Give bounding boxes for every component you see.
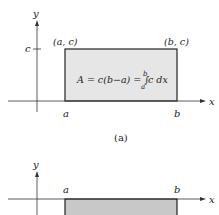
corner-left-label: (a, c) [53, 36, 78, 47]
x-arrow-icon [200, 197, 206, 201]
rectangle-area [65, 199, 177, 215]
y-label: y [32, 8, 39, 19]
y-label: y [32, 159, 39, 170]
corner-right-label: (b, c) [164, 36, 189, 47]
y-arrow-icon [35, 171, 39, 177]
x-arrow-icon [200, 99, 206, 103]
figure-b: y x a b [8, 159, 215, 215]
caption: (a) [114, 132, 128, 143]
x-label: x [209, 194, 215, 205]
a-label: a [63, 108, 69, 119]
c-label: c [25, 43, 31, 54]
diagram: y x c (a, c) (b, c) A = c(b−a) = ∫ b a c… [0, 0, 219, 215]
formula: A = c(b−a) = ∫ [76, 74, 149, 85]
a-label: a [63, 184, 69, 195]
figure-a: y x c (a, c) (b, c) A = c(b−a) = ∫ b a c… [8, 8, 215, 143]
y-arrow-icon [35, 20, 39, 26]
formula-integrand: c dx [148, 74, 168, 85]
b-label: b [174, 184, 180, 195]
x-label: x [209, 96, 215, 107]
formula-lower-limit: a [141, 83, 145, 91]
b-label: b [174, 108, 180, 119]
